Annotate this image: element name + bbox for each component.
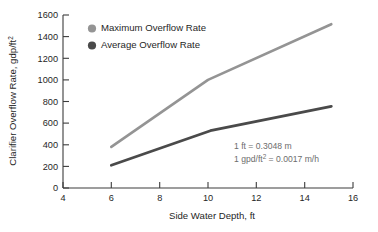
legend-label-average-overflow-rate: Average Overflow Rate (101, 39, 200, 50)
y-tick-label-200: 200 (43, 162, 58, 172)
x-tick-label-12: 12 (251, 193, 261, 203)
legend-marker-maximum-overflow-rate (88, 24, 96, 32)
note-line-2-prefix: 1 gpd/ft (234, 154, 263, 164)
y-tick-label-1400: 1400 (38, 32, 58, 42)
y-tick-label-800: 800 (43, 97, 58, 107)
chart-container: 0 200 400 600 800 1000 1200 1400 1600 4 … (0, 0, 378, 232)
y-axis-title: Clarifier Overflow Rate, gdp/ft2 (7, 36, 18, 166)
legend-marker-average-overflow-rate (88, 41, 96, 49)
y-tick-label-1600: 1600 (38, 10, 58, 20)
y-tick-label-600: 600 (43, 118, 58, 128)
y-tick-label-1200: 1200 (38, 54, 58, 64)
y-tick-label-0: 0 (53, 183, 58, 193)
svg-text:1 gpd/ft2 = 0.0017 m/h: 1 gpd/ft2 = 0.0017 m/h (234, 153, 319, 164)
x-tick-label-8: 8 (157, 193, 162, 203)
legend-label-maximum-overflow-rate: Maximum Overflow Rate (101, 22, 206, 33)
y-axis-title-superscript: 2 (7, 36, 14, 40)
x-tick-label-6: 6 (109, 193, 114, 203)
x-tick-label-4: 4 (60, 193, 65, 203)
x-tick-label-14: 14 (300, 193, 310, 203)
y-tick-label-1000: 1000 (38, 75, 58, 85)
x-axis-ticks (63, 182, 353, 188)
x-tick-label-16: 16 (348, 193, 358, 203)
x-axis-title: Side Water Depth, ft (169, 210, 255, 221)
y-axis-ticks (63, 15, 69, 188)
unit-conversion-note: 1 ft = 0.3048 m 1 gpd/ft2 = 0.0017 m/h (234, 141, 319, 164)
svg-text:Clarifier Overflow Rate, gdp/f: Clarifier Overflow Rate, gdp/ft2 (7, 36, 18, 166)
chart-legend: Maximum Overflow Rate Average Overflow R… (88, 22, 206, 50)
clarifier-overflow-rate-line-chart: 0 200 400 600 800 1000 1200 1400 1600 4 … (0, 0, 378, 232)
y-tick-label-400: 400 (43, 140, 58, 150)
note-line-2-suffix: = 0.0017 m/h (266, 154, 319, 164)
note-line-1: 1 ft = 0.3048 m (234, 141, 292, 151)
y-axis-title-main: Clarifier Overflow Rate, gdp/ft (7, 40, 18, 166)
x-tick-label-10: 10 (203, 193, 213, 203)
